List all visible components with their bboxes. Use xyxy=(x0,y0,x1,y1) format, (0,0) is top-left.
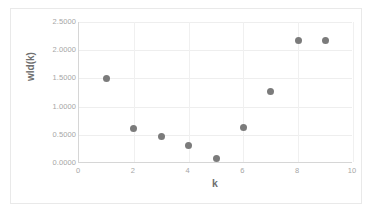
data-point xyxy=(267,88,274,95)
x-tick-label: 4 xyxy=(173,166,203,175)
data-point xyxy=(213,155,220,162)
gridline-vertical xyxy=(353,22,354,162)
data-point xyxy=(158,133,165,140)
y-axis-title: wld(k) xyxy=(25,32,36,102)
gridline-horizontal xyxy=(79,135,352,136)
plot-area xyxy=(78,22,352,163)
data-point xyxy=(103,75,110,82)
x-tick-label: 2 xyxy=(118,166,148,175)
x-tick-label: 10 xyxy=(337,166,367,175)
x-axis-title: k xyxy=(78,177,352,189)
gridline-vertical xyxy=(189,22,190,162)
gridline-horizontal xyxy=(79,50,352,51)
gridline-horizontal xyxy=(79,22,352,23)
gridline-vertical xyxy=(134,22,135,162)
x-axis-tick-labels: 0246810 xyxy=(78,163,352,177)
gridline-vertical xyxy=(243,22,244,162)
chart-card: 0.00000.50001.00001.50002.00002.5000 wld… xyxy=(10,8,362,204)
x-tick-label: 0 xyxy=(63,166,93,175)
x-tick-label: 8 xyxy=(282,166,312,175)
gridline-horizontal xyxy=(79,78,352,79)
data-point xyxy=(295,37,302,44)
data-point xyxy=(185,142,192,149)
gridline-horizontal xyxy=(79,107,352,108)
data-point xyxy=(322,37,329,44)
y-tick-label: 0.5000 xyxy=(24,131,76,139)
y-tick-label: 1.0000 xyxy=(24,103,76,111)
x-tick-label: 6 xyxy=(227,166,257,175)
y-tick-label: 2.5000 xyxy=(24,18,76,26)
data-point xyxy=(240,124,247,131)
data-point xyxy=(130,125,137,132)
